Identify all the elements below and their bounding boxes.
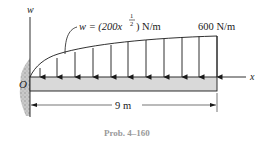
x-axis-label: x	[249, 71, 255, 82]
beam	[30, 77, 217, 91]
load-function-prefix: w = (200x	[79, 21, 123, 33]
exponent-denominator: 2	[130, 20, 133, 27]
beam-diagram: w O x w = (200x 1 2 ) N/m 600 N/m 9 m Pr…	[0, 0, 271, 149]
load-function-suffix: ) N/m	[136, 21, 161, 33]
end-load-label: 600 N/m	[198, 21, 235, 32]
span-label: 9 m	[115, 100, 131, 111]
problem-caption: Prob. 4–160	[104, 128, 150, 138]
load-function-label: w = (200x	[79, 21, 123, 33]
load-arrows	[40, 36, 217, 77]
formula-leader-line	[65, 27, 77, 54]
w-axis-label: w	[27, 4, 34, 15]
exponent-numerator: 1	[130, 12, 133, 19]
origin-label: O	[19, 78, 27, 90]
load-curve	[30, 36, 217, 77]
